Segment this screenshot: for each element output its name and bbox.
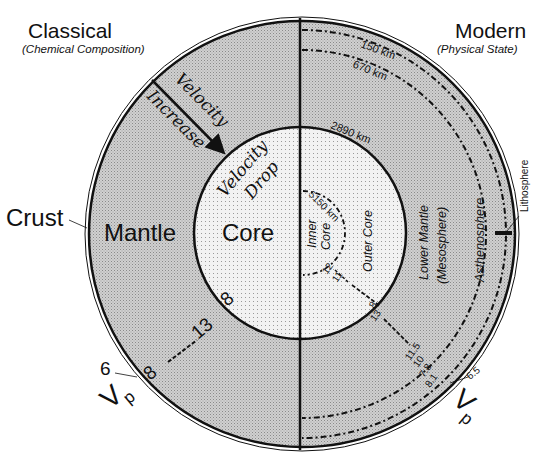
classical-subheading: (Chemical Composition)	[22, 43, 145, 55]
classical-heading: Classical	[28, 19, 112, 42]
lower-mantle-label-2: (Mesosphere)	[435, 207, 449, 284]
mantle-label: Mantle	[104, 219, 176, 246]
vp-left-label: V p	[94, 373, 139, 419]
inner-core-label-2: Core	[319, 223, 333, 250]
modern-subheading: (Physical State)	[437, 43, 518, 55]
earth-structure-diagram: Classical (Chemical Composition) Modern …	[0, 0, 543, 463]
asthenosphere-label: Asthenosphere	[473, 198, 487, 283]
lower-mantle-label-1: Lower Mantle	[417, 205, 431, 280]
outer-core-label: Outer Core	[361, 210, 375, 272]
crust-label: Crust	[6, 204, 64, 231]
core-label: Core	[222, 219, 274, 246]
inner-core-label-1: Inner	[305, 219, 319, 248]
vp-left-crust-value: 6	[100, 358, 111, 379]
vp-left-crust-leader	[115, 373, 137, 377]
modern-heading: Modern	[455, 19, 526, 42]
crust-leader	[69, 220, 87, 228]
lithosphere-label: Lithosphere	[519, 159, 530, 212]
